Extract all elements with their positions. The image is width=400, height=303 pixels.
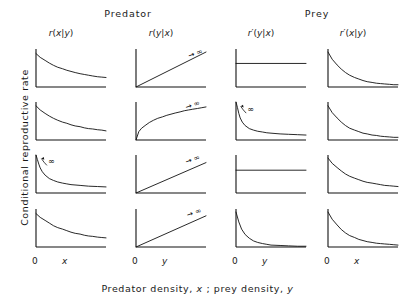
plot-panel-r2-c3: ∞: [230, 99, 308, 146]
data-curve: [236, 212, 306, 246]
column-header-args: (y|x): [254, 28, 275, 38]
data-curve: [136, 163, 206, 193]
plot-panel-r1-c2: → ∞: [130, 46, 208, 93]
arrow-infinity-label: → ∞: [184, 99, 201, 112]
plot-panel-r4-c4: [322, 206, 400, 253]
column-header-4: r′(x|y): [314, 28, 392, 38]
group-label-prey: Prey: [272, 8, 362, 19]
tick-variable-col1: x: [62, 256, 67, 266]
plot-panel-r1-c1: [30, 46, 108, 93]
plot-panel-r2-c1: [30, 99, 108, 146]
column-header-2: r(y|x): [122, 28, 200, 38]
arrow-infinity-label: → ∞: [185, 206, 202, 219]
column-header-args: (x|y): [52, 28, 73, 38]
data-curve: [328, 52, 398, 85]
plot-panel-r3-c3: [230, 152, 308, 199]
plot-panel-r4-c2: → ∞: [130, 206, 208, 253]
plot-panel-r4-c1: [30, 206, 108, 253]
data-curve: [328, 158, 398, 187]
data-curve: [328, 212, 398, 245]
data-curve: [328, 106, 398, 138]
infinity-label: ∞: [247, 105, 254, 114]
plot-panel-r1-c3: [230, 46, 308, 93]
arrow-infinity-label: → ∞: [184, 153, 201, 167]
column-header-args: (x|y): [346, 28, 367, 38]
tick-zero-col2: 0: [132, 256, 138, 266]
data-curve: [36, 54, 106, 78]
data-curve: [36, 106, 106, 131]
column-header-args: (y|x): [152, 28, 173, 38]
plot-panel-r3-c4: [322, 152, 400, 199]
tick-variable-col2: y: [162, 256, 167, 266]
tick-variable-col3: y: [262, 256, 267, 266]
tick-zero-col1: 0: [32, 256, 38, 266]
plot-panel-r2-c2: → ∞: [130, 99, 208, 146]
x-axis-title-part1: Predator density,: [101, 283, 196, 294]
column-header-3: r′(y|x): [222, 28, 300, 38]
tick-zero-col4: 0: [324, 256, 330, 266]
group-label-predator: Predator: [73, 8, 183, 19]
column-header-1: r(x|y): [22, 28, 100, 38]
tick-zero-col3: 0: [232, 256, 238, 266]
plot-panel-r3-c1: ∞: [30, 152, 108, 199]
x-axis-title: Predator density, x ; prey density, y: [0, 283, 395, 294]
x-axis-title-var-y: y: [287, 283, 293, 294]
arrow-infinity-label: → ∞: [187, 47, 204, 61]
plot-panel-r3-c2: → ∞: [130, 152, 208, 199]
data-curve: [36, 214, 106, 238]
plot-panel-r1-c4: [322, 46, 400, 93]
data-curve: [136, 216, 206, 247]
plot-panel-r2-c4: [322, 99, 400, 146]
data-curve: [36, 155, 106, 187]
plot-panel-r4-c3: [230, 206, 308, 253]
infinity-label: ∞: [48, 157, 55, 166]
x-axis-title-part2: ; prey density,: [203, 283, 288, 294]
data-curve: [136, 107, 206, 140]
tick-variable-col4: x: [354, 256, 359, 266]
y-axis-title: Conditional reproductive rate: [19, 68, 30, 228]
